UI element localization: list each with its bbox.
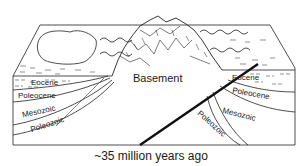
label-left-eocene: Eocene: [31, 79, 58, 87]
caption: ~35 million years ago: [0, 149, 302, 163]
label-basement: Basement: [133, 73, 183, 84]
label-left-paleocene: Poleocene: [18, 92, 56, 100]
label-right-eocene: Eocene: [232, 74, 259, 82]
basin-outline: [37, 31, 96, 64]
